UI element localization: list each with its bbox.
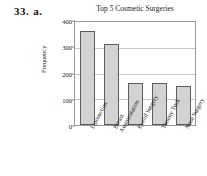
- y-axis-tick-labels: 400 300 200 100 0: [55, 21, 72, 126]
- bar-liposuction: [80, 31, 95, 125]
- y-tick-label: 300: [62, 44, 72, 51]
- figure: 33.a. Top 5 Cosmetic Surgeries Frequency…: [0, 0, 207, 176]
- y-tick-label: 200: [62, 70, 72, 77]
- y-axis-title: Frequency: [40, 46, 47, 73]
- x-axis-tick-labels: Liposuction BreastAugmentation Eyelid Su…: [74, 127, 196, 176]
- y-tick-label: 400: [62, 18, 72, 25]
- problem-part: a.: [33, 5, 42, 17]
- bar-breast-augmentation: [104, 44, 119, 125]
- problem-number: 33.: [14, 5, 29, 17]
- chart-title: Top 5 Cosmetic Surgeries: [74, 4, 196, 13]
- y-tick-label: 100: [62, 96, 72, 103]
- problem-label: 33.a.: [14, 5, 43, 17]
